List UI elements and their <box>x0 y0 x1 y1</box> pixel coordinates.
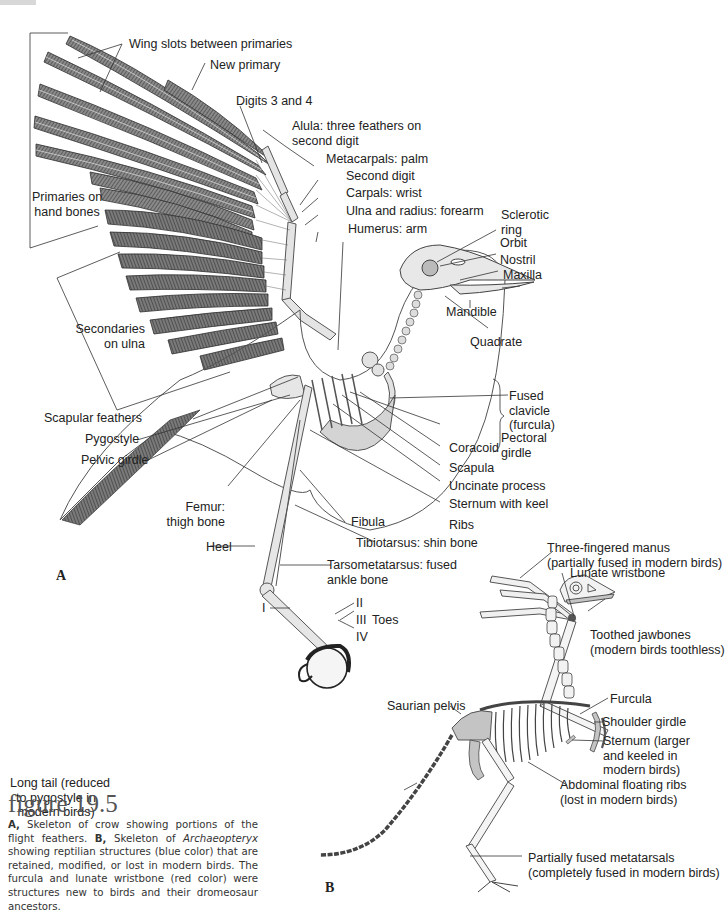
label-jaw-line2: (modern birds toothless) <box>590 643 725 658</box>
label-tibiotarsus: Tibiotarsus: shin bone <box>356 536 478 551</box>
label-pectoral-line1: Pectoral <box>501 431 547 446</box>
label-primaries: Primaries on hand bones <box>32 190 102 219</box>
label-tarsometatarsus-line2: ankle bone <box>327 573 457 588</box>
label-femur: Femur: thigh bone <box>160 500 225 529</box>
label-lunate-wristbone: Lunate wristbone <box>570 566 665 581</box>
label-primaries-line1: Primaries on <box>32 190 102 205</box>
label-toe-i: I <box>262 601 265 616</box>
label-sternum-line2: and keeled in <box>603 749 690 764</box>
label-fibula: Fibula <box>351 515 385 530</box>
label-toes: Toes <box>372 613 398 628</box>
label-scapula: Scapula <box>449 461 494 476</box>
label-orbit: Orbit <box>500 236 527 251</box>
label-partially-fused-metatarsals: Partially fused metatarsals (completely … <box>528 851 720 880</box>
label-fused-clavicle-line1: Fused <box>509 389 555 404</box>
label-floating-ribs-line1: Abdominal floating ribs <box>560 778 686 793</box>
label-manus-line1: Three-fingered manus <box>547 541 722 556</box>
label-sternum-keel: Sternum with keel <box>449 497 548 512</box>
label-ulna-radius: Ulna and radius: forearm <box>346 204 484 219</box>
panel-b-marker: B <box>325 880 334 896</box>
label-maxilla: Maxilla <box>503 268 542 283</box>
label-humerus: Humerus: arm <box>348 222 427 237</box>
label-fused-clavicle-line2: clavicle <box>509 404 555 419</box>
label-toe-iii: III <box>356 613 366 628</box>
caption-marker-a: A, <box>8 819 20 830</box>
label-alula-line2: second digit <box>292 134 421 149</box>
label-toe-iv: IV <box>356 630 368 645</box>
label-saurian-pelvis: Saurian pelvis <box>387 699 466 714</box>
label-sclerotic-ring: Sclerotic ring <box>501 208 549 237</box>
label-floating-ribs-line2: (lost in modern birds) <box>560 793 686 808</box>
label-scapular-feathers: Scapular feathers <box>44 411 142 426</box>
caption-genus: Archaeopteryx <box>183 833 258 844</box>
figure-title: figure 19.5 <box>8 790 118 818</box>
caption-marker-b: B, <box>95 833 107 844</box>
label-secondaries-line2: on ulna <box>70 337 145 352</box>
label-second-digit: Second digit <box>346 169 415 184</box>
label-carpals: Carpals: wrist <box>346 186 422 201</box>
label-femur-line2: thigh bone <box>160 515 225 530</box>
label-secondaries: Secondaries on ulna <box>70 322 145 351</box>
label-furcula: Furcula <box>610 692 652 707</box>
label-new-primary: New primary <box>210 58 280 73</box>
label-uncinate-process: Uncinate process <box>449 479 546 494</box>
label-jaw-line1: Toothed jawbones <box>590 628 725 643</box>
perch-and-toes <box>299 646 349 688</box>
label-ribs: Ribs <box>449 518 474 533</box>
label-tarsometatarsus-line1: Tarsometatarsus: fused <box>327 558 457 573</box>
label-secondaries-line1: Secondaries <box>70 322 145 337</box>
label-mandible: Mandible <box>446 305 497 320</box>
label-sclerotic-line1: Sclerotic <box>501 208 549 223</box>
label-tail-line1: Long tail (reduced <box>10 776 102 791</box>
label-fused-clavicle: Fused clavicle (furcula) <box>509 389 555 433</box>
label-pectoral-girdle: Pectoral girdle <box>501 431 547 460</box>
label-sternum-archaeopteryx: Sternum (larger and keeled in modern bir… <box>603 734 690 778</box>
label-metatarsals-line2: (completely fused in modern birds) <box>528 866 720 881</box>
label-toothed-jawbones: Toothed jawbones (modern birds toothless… <box>590 628 725 657</box>
label-nostril: Nostril <box>500 253 535 268</box>
label-metacarpals: Metacarpals: palm <box>326 152 428 167</box>
panel-a-marker: A <box>56 568 66 584</box>
label-quadrate: Quadrate <box>470 335 522 350</box>
label-heel: Heel <box>206 540 232 555</box>
label-metatarsals-line1: Partially fused metatarsals <box>528 851 720 866</box>
label-coracoid: Coracoid <box>449 441 499 456</box>
label-abdominal-floating-ribs: Abdominal floating ribs (lost in modern … <box>560 778 686 807</box>
label-alula: Alula: three feathers on second digit <box>292 119 421 148</box>
label-primaries-line2: hand bones <box>32 205 102 220</box>
label-pectoral-line2: girdle <box>501 446 547 461</box>
label-sclerotic-line2: ring <box>501 223 549 238</box>
label-tarsometatarsus: Tarsometatarsus: fused ankle bone <box>327 558 457 587</box>
label-sternum-line3: modern birds) <box>603 763 690 778</box>
label-wing-slots: Wing slots between primaries <box>129 37 292 52</box>
label-digits-3-4: Digits 3 and 4 <box>236 94 312 109</box>
label-sternum-line1: Sternum (larger <box>603 734 690 749</box>
label-pygostyle: Pygostyle <box>85 432 139 447</box>
caption-text-b1: Skeleton of <box>106 833 183 844</box>
label-alula-line1: Alula: three feathers on <box>292 119 421 134</box>
caption-text-b2: showing reptilian structures (blue color… <box>8 846 258 911</box>
label-toe-ii: II <box>356 596 363 611</box>
label-femur-line1: Femur: <box>160 500 225 515</box>
label-shoulder-girdle: Shoulder girdle <box>602 715 686 730</box>
label-pelvic-girdle: Pelvic girdle <box>81 453 148 468</box>
figure-caption: A, Skeleton of crow showing portions of … <box>8 818 258 913</box>
